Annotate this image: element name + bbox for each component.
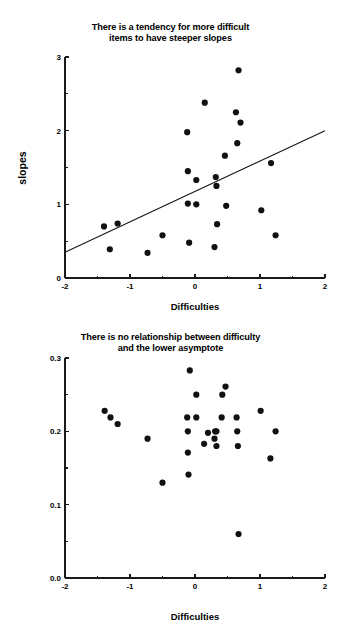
data-point xyxy=(213,428,219,434)
data-point xyxy=(234,414,240,420)
data-point xyxy=(101,223,107,229)
y-axis-title-slopes: slopes xyxy=(16,151,28,184)
data-point xyxy=(205,430,211,436)
data-point xyxy=(185,168,191,174)
data-point xyxy=(213,183,219,189)
axes-slopes xyxy=(65,57,325,278)
data-point xyxy=(273,232,279,238)
data-point xyxy=(107,414,113,420)
data-point xyxy=(193,414,199,420)
data-point xyxy=(222,153,228,159)
x-tick-label: -1 xyxy=(126,282,134,291)
data-point xyxy=(187,367,193,373)
x-axis-title-lower-asymptotes: Difficulties xyxy=(171,611,220,622)
data-point xyxy=(185,428,191,434)
scatter-figure-slopes: There is a tendency for more difficult i… xyxy=(0,0,341,320)
data-point xyxy=(214,221,220,227)
data-point xyxy=(235,531,241,537)
data-point xyxy=(115,220,121,226)
y-tick-label: 0 xyxy=(57,274,62,283)
data-point xyxy=(258,207,264,213)
y-tick-label: 2 xyxy=(57,127,62,136)
data-point xyxy=(193,392,199,398)
data-points-lower-asymptotes xyxy=(102,367,279,537)
data-point xyxy=(102,408,108,414)
data-points-slopes xyxy=(101,67,279,256)
x-tick-label: -2 xyxy=(61,582,69,591)
regression-line-slopes xyxy=(65,131,325,253)
x-tick-label: 0 xyxy=(193,582,198,591)
y-tick-label: 0.1 xyxy=(50,501,62,510)
data-point xyxy=(235,443,241,449)
y-tick-label: 1 xyxy=(57,200,62,209)
x-tick-label: 1 xyxy=(258,282,263,291)
data-point xyxy=(211,244,217,250)
data-point xyxy=(267,455,273,461)
data-point xyxy=(237,119,243,125)
data-point xyxy=(213,174,219,180)
scatter-figure-lower-asymptotes: There is no relationship between difficu… xyxy=(0,320,341,625)
data-point xyxy=(107,246,113,252)
tick-labels-slopes: -2-10120123 xyxy=(57,53,328,291)
data-point xyxy=(219,414,225,420)
data-point xyxy=(211,436,217,442)
x-tick-label: 0 xyxy=(193,282,198,291)
y-tick-label: 0.0 xyxy=(50,574,62,583)
x-tick-label: 2 xyxy=(323,282,328,291)
data-point xyxy=(159,480,165,486)
data-point xyxy=(258,408,264,414)
y-tick-label: 3 xyxy=(57,53,62,62)
data-point xyxy=(144,250,150,256)
data-point xyxy=(144,436,150,442)
y-tick-label: 0.2 xyxy=(50,427,62,436)
data-point xyxy=(193,201,199,207)
x-axis-title-slopes: Difficulties xyxy=(171,301,220,312)
x-tick-label: 1 xyxy=(258,582,263,591)
data-point xyxy=(213,443,219,449)
x-tick-label: 2 xyxy=(323,582,328,591)
regression-line xyxy=(65,131,325,253)
data-point xyxy=(233,109,239,115)
plot-area-slopes: -2-10120123 Difficulties slopes xyxy=(0,0,341,320)
y-tick-label: 0.3 xyxy=(50,354,62,363)
data-point xyxy=(273,428,279,434)
data-point xyxy=(234,428,240,434)
data-point xyxy=(234,140,240,146)
data-point xyxy=(223,203,229,209)
data-point xyxy=(185,450,191,456)
data-point xyxy=(115,421,121,427)
plot-area-lower-asymptotes: -2-10120.00.10.20.3 Difficulties Lower A… xyxy=(0,320,341,625)
data-point xyxy=(184,129,190,135)
data-point xyxy=(159,232,165,238)
data-point xyxy=(185,472,191,478)
data-point xyxy=(235,67,241,73)
data-point xyxy=(202,100,208,106)
data-point xyxy=(222,384,228,390)
x-tick-label: -2 xyxy=(61,282,69,291)
data-point xyxy=(193,177,199,183)
axes-lower-asymptotes xyxy=(65,358,325,578)
data-point xyxy=(185,201,191,207)
data-point xyxy=(184,414,190,420)
data-point xyxy=(186,240,192,246)
data-point xyxy=(201,441,207,447)
data-point xyxy=(219,392,225,398)
x-tick-label: -1 xyxy=(126,582,134,591)
data-point xyxy=(268,160,274,166)
